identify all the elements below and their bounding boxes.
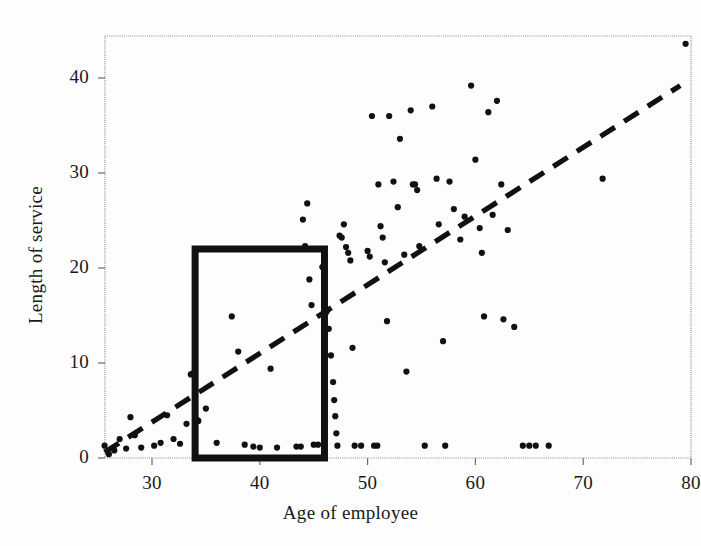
x-tick-label-50: 50 [343,472,393,494]
data-point [343,244,349,250]
y-tick-label-20: 20 [47,256,89,278]
y-tick-label-40: 40 [47,66,89,88]
data-point [374,443,380,449]
data-point [451,206,457,212]
data-point [600,176,606,182]
data-point [365,248,371,254]
data-point [533,443,539,449]
y-tick-label-10: 10 [47,351,89,373]
data-point [214,440,220,446]
data-point [485,109,491,115]
data-point [436,221,442,227]
data-point [442,443,448,449]
data-point [358,443,364,449]
data-point [481,313,487,319]
data-point [386,113,392,119]
data-point [331,397,337,403]
data-point [158,440,164,446]
data-point [164,412,170,418]
data-point [127,414,133,420]
data-point [308,302,314,308]
data-point [468,83,474,89]
x-tick-label-70: 70 [558,472,608,494]
data-point [183,421,189,427]
data-point [511,324,517,330]
x-tick-label-30: 30 [127,472,177,494]
x-tick-label-60: 60 [450,472,500,494]
data-point [138,444,144,450]
data-point [375,181,381,187]
data-point [472,157,478,163]
data-point [422,443,428,449]
data-point [546,443,552,449]
data-point [170,436,176,442]
data-point [490,212,496,218]
data-point [257,444,263,450]
data-point [498,181,504,187]
data-point [397,136,403,142]
plot-canvas [0,0,701,546]
data-point [328,352,334,358]
data-point [440,338,446,344]
data-point [382,259,388,265]
data-point [349,345,355,351]
data-point [229,313,235,319]
data-point [494,98,500,104]
data-point [101,443,107,449]
data-point [332,413,338,419]
data-point [500,316,506,322]
data-point [111,447,117,453]
y-axis-title: Length of service [25,155,47,355]
data-point [177,441,183,447]
data-point [117,436,123,442]
data-point [369,113,375,119]
data-point [457,236,463,242]
data-point [203,406,209,412]
data-point [446,178,452,184]
x-axis-title: Age of employee [0,502,701,524]
data-point [132,432,138,438]
data-point [505,227,511,233]
data-point [151,443,157,449]
data-point [235,349,241,355]
data-point [333,430,339,436]
data-point [347,257,353,263]
data-point [298,444,304,450]
data-point [412,181,418,187]
data-point [123,445,129,451]
data-point [403,368,409,374]
data-point [300,216,306,222]
data-point [274,444,280,450]
y-tick-label-0: 0 [47,446,89,468]
data-point [390,178,396,184]
data-point [384,318,390,324]
data-point [683,41,689,47]
data-point [526,443,532,449]
data-point [242,442,248,448]
data-point [341,221,347,227]
trend-line [105,86,681,453]
data-point [377,223,383,229]
data-point [462,214,468,220]
data-point [414,187,420,193]
data-point [433,176,439,182]
data-point [106,451,112,457]
data-point [339,235,345,241]
data-point [267,366,273,372]
data-point [479,250,485,256]
data-point [408,107,414,113]
x-tick-label-40: 40 [235,472,285,494]
data-point [416,243,422,249]
data-point [345,250,351,256]
scatter-plot-figure: 010203040 304050607080 Age of employee L… [0,0,701,546]
data-point [477,225,483,231]
data-point [352,443,358,449]
x-tick-label-80: 80 [666,472,701,494]
data-point [401,252,407,258]
y-tick-label-30: 30 [47,161,89,183]
data-point [380,235,386,241]
data-point [304,200,310,206]
data-point [250,444,256,450]
data-point [367,254,373,260]
data-point [429,103,435,109]
